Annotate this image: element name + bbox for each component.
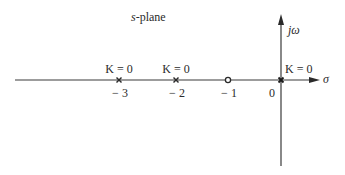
plane-title-rest: -plane (136, 10, 166, 24)
tick-label-minus-3: − 3 (112, 87, 128, 99)
tick-label-minus-1: − 1 (221, 87, 237, 99)
tick-label-origin: 0 (269, 87, 275, 99)
s-plane-diagram: s-plane jω σ K = 0 K = 0 K = 0 − 3 − 2 −… (0, 0, 345, 175)
imaginary-axis-arrow-icon (278, 14, 284, 25)
real-axis-arrow-icon (309, 77, 320, 83)
gain-label-origin: K = 0 (285, 63, 312, 75)
gain-label-minus-2: K = 0 (162, 63, 189, 75)
tick-label-minus-2: − 2 (169, 87, 185, 99)
zero-marker-minus-1 (225, 77, 230, 82)
real-axis-label: σ (323, 73, 329, 85)
gain-label-minus-3: K = 0 (105, 63, 132, 75)
imaginary-axis-label: jω (288, 24, 300, 36)
plane-title: s-plane (131, 11, 166, 23)
